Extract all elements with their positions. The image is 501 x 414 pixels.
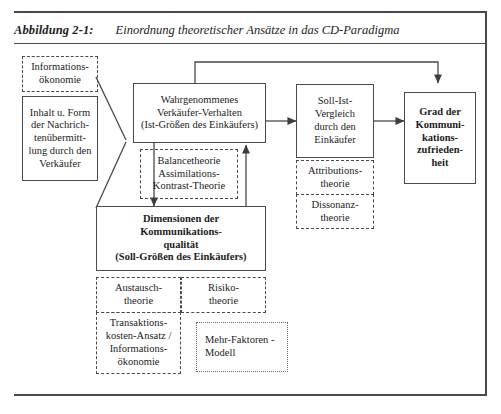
node-line: ökonomie	[39, 74, 81, 87]
wire-wahrgenommenes-grad-bypass	[195, 62, 438, 83]
wire-inhalt-dimensionen-diag	[96, 77, 126, 140]
node-inhalt-form[interactable]: Inhalt u. Form der Nachrich- tenübermitt…	[22, 96, 98, 181]
node-line: (Ist-Größen des Einkäufers)	[141, 119, 258, 132]
node-line: zufrieden-	[417, 144, 463, 157]
node-line: tenübermitt-	[34, 132, 86, 145]
node-line: Attributions-	[308, 165, 362, 178]
node-transaktionskosten-ansatz[interactable]: Transaktions- kosten-Ansatz / Informatio…	[96, 312, 181, 374]
node-wahrgenommenes-verkaeufer-verhalten[interactable]: Wahrgenommenes Verkäufer-Verhalten (Ist-…	[133, 83, 266, 143]
node-balancetheorie[interactable]: Balancetheorie Assimilations- Kontrast-T…	[140, 149, 238, 199]
node-risikotheorie[interactable]: Risiko- theorie	[181, 277, 266, 313]
node-line: ökonomie	[118, 356, 160, 369]
node-line: kations-	[422, 132, 458, 145]
node-line: Transaktions-	[110, 317, 167, 330]
node-line: Mehr-Faktoren -	[205, 334, 274, 347]
node-line: Dimensionen der	[143, 213, 219, 226]
node-austauschtheorie[interactable]: Austausch- theorie	[96, 277, 181, 313]
node-dissonanztheorie[interactable]: Dissonanz- theorie	[296, 194, 374, 229]
node-line: Wahrgenommenes	[161, 94, 239, 107]
node-line: theorie	[209, 295, 238, 308]
node-soll-ist-vergleich[interactable]: Soll-Ist- Vergleich durch den Einkäufer	[296, 84, 374, 158]
node-line: Kommuni-	[415, 119, 464, 132]
node-line: qualität	[163, 239, 198, 252]
node-line: der Nachrich-	[31, 119, 89, 132]
node-dimensionen-kommunikationsqualitaet[interactable]: Dimensionen der Kommunikations- qualität…	[96, 206, 266, 271]
figure-page: Abbildung 2-1: Einordnung theoretischer …	[0, 0, 501, 414]
node-attributionstheorie[interactable]: Attributions- theorie	[296, 160, 374, 195]
node-line: Balancetheorie	[158, 155, 221, 168]
node-line: Dissonanz-	[311, 199, 358, 212]
node-line: Risiko-	[208, 282, 239, 295]
node-line: Inhalt u. Form	[30, 107, 90, 120]
node-line: durch den	[314, 121, 356, 134]
node-line: Kontrast-Theorie	[153, 180, 225, 193]
node-line: kosten-Ansatz /	[106, 330, 172, 343]
node-line: Modell	[205, 347, 235, 360]
node-grad-der-kommunikationszufriedenheit[interactable]: Grad der Kommuni- kations- zufrieden- he…	[404, 92, 476, 184]
node-line: Informations-	[31, 61, 89, 74]
node-line: Grad der	[419, 106, 461, 119]
node-line: Assimilations-	[158, 168, 219, 181]
node-informationsoekonomie-top[interactable]: Informations- ökonomie	[22, 56, 98, 92]
node-line: Informations-	[110, 343, 168, 356]
node-line: Einkäufer	[314, 134, 355, 147]
node-line: heit	[432, 157, 449, 170]
node-line: Kommunikations-	[140, 226, 222, 239]
node-line: Austausch-	[115, 282, 162, 295]
node-line: Vergleich	[315, 108, 355, 121]
node-line: Verkäufer	[39, 158, 80, 171]
node-line: theorie	[320, 212, 349, 225]
wire-inhalt-wahrgenommenes-diag	[96, 142, 126, 208]
node-line: (Soll-Größen des Einkäufers)	[115, 251, 246, 264]
node-mehr-faktoren-modell[interactable]: Mehr-Faktoren - Modell	[196, 322, 288, 372]
node-line: Verkäufer-Verhalten	[157, 107, 242, 120]
node-line: theorie	[320, 178, 349, 191]
node-line: lung durch den	[29, 145, 92, 158]
node-line: Soll-Ist-	[318, 95, 352, 108]
node-line: theorie	[124, 295, 153, 308]
